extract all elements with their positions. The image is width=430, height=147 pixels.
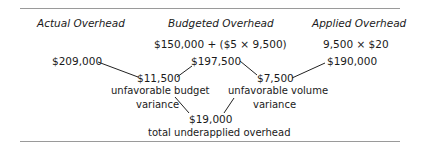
line-applied-to-volume-variance <box>292 63 325 78</box>
line-budget-variance-to-total <box>175 97 189 113</box>
line-budgeted-to-budget-variance <box>177 66 192 77</box>
line-budgeted-to-volume-variance <box>240 61 257 75</box>
line-volume-variance-to-total <box>224 98 234 113</box>
line-actual-to-budget-variance <box>98 62 138 77</box>
connector-lines <box>0 0 430 147</box>
bottom-rule <box>20 141 400 142</box>
